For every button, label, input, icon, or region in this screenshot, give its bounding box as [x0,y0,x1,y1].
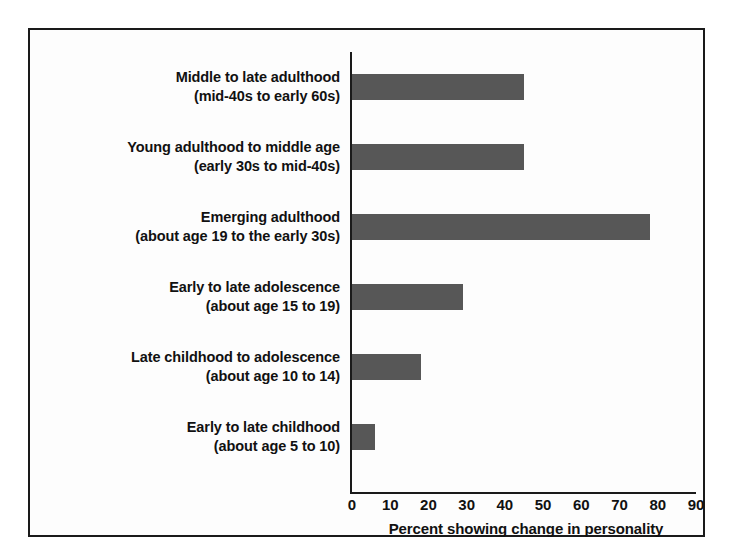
x-tick-label: 60 [573,496,590,513]
category-label-line2: (mid-40s to early 60s) [30,87,340,106]
bar [352,74,524,100]
bar [352,424,375,450]
x-tick-label: 20 [420,496,437,513]
category-label-line1: Young adulthood to middle age [127,139,340,155]
bar-track [352,214,696,240]
bar-track [352,284,696,310]
chart-row: Early to late adolescence (about age 15 … [30,262,703,332]
category-label-line2: (about age 19 to the early 30s) [30,227,340,246]
bar-track [352,424,696,450]
category-label-line2: (about age 10 to 14) [30,367,340,386]
chart-row: Middle to late adulthood (mid-40s to ear… [30,52,703,122]
x-axis-ticks: 0102030405060708090 [352,496,696,518]
x-axis-line [350,492,696,494]
category-label: Middle to late adulthood (mid-40s to ear… [30,68,340,106]
x-tick-label: 40 [497,496,514,513]
category-label-line1: Middle to late adulthood [176,69,340,85]
x-tick-label: 90 [688,496,705,513]
category-label: Young adulthood to middle age (early 30s… [30,138,340,176]
category-label-line1: Early to late childhood [187,419,340,435]
category-label: Early to late childhood (about age 5 to … [30,418,340,456]
bar-track [352,144,696,170]
category-label: Emerging adulthood (about age 19 to the … [30,208,340,246]
category-label-line2: (early 30s to mid-40s) [30,157,340,176]
category-label-line2: (about age 15 to 19) [30,297,340,316]
category-label-line1: Early to late adolescence [169,279,340,295]
chart-row: Late childhood to adolescence (about age… [30,332,703,402]
x-tick-label: 80 [649,496,666,513]
category-label: Early to late adolescence (about age 15 … [30,278,340,316]
chart-row: Early to late childhood (about age 5 to … [30,402,703,472]
x-axis-title: Percent showing change in personality [352,520,700,537]
x-tick-label: 30 [458,496,475,513]
bar-track [352,354,696,380]
bar [352,144,524,170]
chart-row: Young adulthood to middle age (early 30s… [30,122,703,192]
category-label-line1: Late childhood to adolescence [131,349,340,365]
category-label-line1: Emerging adulthood [201,209,340,225]
plot-area: Middle to late adulthood (mid-40s to ear… [30,30,703,535]
category-label-line2: (about age 5 to 10) [30,437,340,456]
x-tick-label: 0 [348,496,356,513]
bar [352,284,463,310]
category-label: Late childhood to adolescence (about age… [30,348,340,386]
chart-figure: Middle to late adulthood (mid-40s to ear… [28,28,705,537]
chart-row: Emerging adulthood (about age 19 to the … [30,192,703,262]
x-tick-label: 70 [611,496,628,513]
bar [352,214,650,240]
bar [352,354,421,380]
x-tick-label: 50 [535,496,552,513]
x-tick-label: 10 [382,496,399,513]
bar-track [352,74,696,100]
